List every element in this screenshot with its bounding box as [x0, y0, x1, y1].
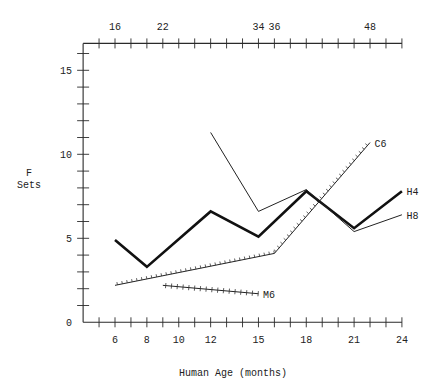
line-marker-tick	[122, 281, 123, 284]
line-marker-tick	[277, 246, 279, 248]
line-marker-tick	[176, 270, 177, 273]
x-tick-label: 18	[300, 335, 312, 346]
line-marker-tick	[254, 255, 255, 258]
line-marker-tick	[205, 264, 206, 267]
series-line	[115, 191, 402, 267]
line-marker-tick	[362, 147, 364, 149]
line-marker-tick	[225, 261, 226, 264]
line-marker-tick	[146, 276, 147, 279]
series-label: H8	[406, 211, 418, 222]
series-m6: M6	[163, 283, 275, 301]
y-tick-label: 0	[66, 318, 72, 329]
line-marker-tick	[346, 166, 348, 168]
line-marker-tick	[239, 258, 240, 261]
x-tick-label: 10	[173, 335, 185, 346]
top-axis-tick-label: 22	[157, 22, 169, 33]
line-marker-tick	[132, 279, 133, 282]
line-marker-tick	[195, 266, 196, 269]
series-h8: H8	[211, 132, 419, 231]
line-marker-tick	[339, 174, 341, 176]
line-marker-tick	[235, 259, 236, 262]
y-tick-label: 10	[60, 150, 72, 161]
line-marker-tick	[186, 268, 187, 271]
x-tick-label: 24	[396, 335, 408, 346]
top-axis-tick-label: 36	[268, 22, 280, 33]
line-marker-tick	[303, 216, 305, 218]
line-chart: 681012151821240510151622343648 H4H8C6M6 …	[0, 0, 431, 391]
line-marker-tick	[356, 155, 358, 157]
series-label: C6	[375, 139, 387, 150]
line-marker-tick	[333, 182, 335, 184]
line-marker-tick	[342, 170, 344, 172]
line-marker-tick	[141, 277, 142, 280]
top-axis-tick-label: 34	[252, 22, 264, 33]
line-marker-tick	[269, 252, 270, 255]
line-marker-tick	[359, 151, 361, 153]
line-marker-tick	[230, 260, 231, 263]
series-line	[115, 143, 370, 286]
line-marker-tick	[294, 227, 296, 229]
line-marker-tick	[259, 254, 260, 257]
x-tick-label: 8	[144, 335, 150, 346]
line-marker-tick	[300, 219, 302, 221]
line-marker-tick	[320, 197, 322, 199]
line-marker-tick	[127, 280, 128, 283]
line-marker-tick	[190, 267, 191, 270]
x-tick-label: 21	[348, 335, 360, 346]
line-marker-tick	[166, 272, 167, 275]
axes: 681012151821240510151622343648	[60, 22, 408, 346]
x-tick-label: 15	[252, 335, 264, 346]
line-marker-tick	[326, 189, 328, 191]
y-tick-label: 5	[66, 234, 72, 245]
line-marker-tick	[215, 262, 216, 265]
x-tick-label: 6	[112, 335, 118, 346]
series-label: H4	[406, 187, 418, 198]
line-marker-tick	[280, 242, 282, 244]
line-marker-tick	[336, 178, 338, 180]
line-marker-tick	[297, 223, 299, 225]
line-marker-tick	[352, 159, 354, 161]
line-marker-tick	[274, 251, 275, 254]
series-c6: C6	[115, 139, 387, 286]
line-marker-tick	[181, 269, 182, 272]
line-marker-tick	[244, 257, 245, 260]
top-axis-tick-label: 16	[109, 22, 121, 33]
line-marker-tick	[210, 263, 211, 266]
line-marker-tick	[220, 261, 221, 264]
line-marker-tick	[329, 185, 331, 187]
line-marker-tick	[290, 231, 292, 233]
line-marker-tick	[151, 275, 152, 278]
line-marker-tick	[349, 163, 351, 165]
line-marker-tick	[323, 193, 325, 195]
x-tick-label: 12	[205, 335, 217, 346]
top-axis-tick-label: 48	[364, 22, 376, 33]
line-marker-tick	[171, 271, 172, 274]
line-marker-tick	[200, 265, 201, 268]
line-marker-tick	[310, 208, 312, 210]
line-marker-tick	[307, 212, 309, 214]
line-marker-tick	[156, 274, 157, 277]
line-marker-tick	[137, 278, 138, 281]
line-marker-tick	[117, 282, 118, 285]
y-axis-label-line-1: F	[26, 168, 32, 179]
line-marker-tick	[264, 253, 265, 256]
y-tick-label: 15	[60, 66, 72, 77]
series-label: M6	[263, 290, 275, 301]
line-marker-tick	[313, 204, 315, 206]
line-marker-tick	[249, 256, 250, 259]
series-layer: H4H8C6M6	[115, 132, 418, 300]
line-marker-tick	[161, 273, 162, 276]
y-axis-label-line-2: Sets	[17, 180, 41, 191]
line-marker-tick	[287, 235, 289, 237]
line-marker-tick	[284, 238, 286, 240]
x-axis-title: Human Age (months)	[179, 368, 287, 379]
line-marker-tick	[365, 144, 367, 146]
